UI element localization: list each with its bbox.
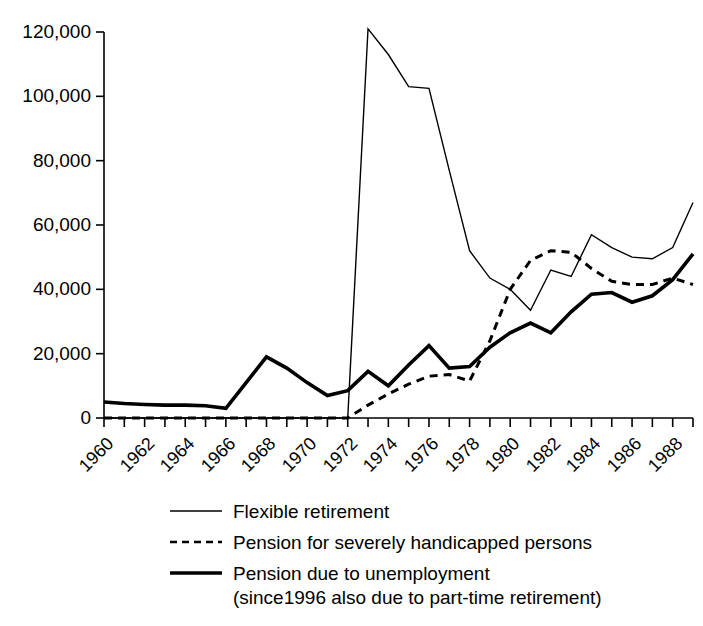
legend-label-block: Pension due to unemployment (since1996 a… [233, 562, 602, 610]
chart-legend: Flexible retirement Pension for severely… [168, 500, 688, 617]
series-line [104, 29, 693, 418]
legend-item-severely-handicapped: Pension for severely handicapped persons [168, 531, 688, 555]
legend-label: Pension for severely handicapped persons [233, 531, 592, 555]
y-axis-tick-label: 40,000 [33, 279, 91, 298]
series-line [104, 251, 693, 418]
legend-item-unemployment: Pension due to unemployment (since1996 a… [168, 562, 688, 610]
legend-line-thick-solid-icon [168, 562, 224, 582]
y-axis-tick-label: 100,000 [22, 86, 91, 105]
legend-label: Flexible retirement [233, 500, 389, 524]
axes [96, 32, 693, 427]
chart-container: 020,00040,00060,00080,000100,000120,000 … [0, 0, 703, 626]
legend-label-block: Flexible retirement [233, 500, 389, 524]
y-axis-tick-label: 120,000 [22, 22, 91, 41]
series-line [104, 254, 693, 408]
y-axis-tick-label: 0 [80, 408, 91, 427]
legend-label-block: Pension for severely handicapped persons [233, 531, 592, 555]
legend-line-dashed-icon [168, 531, 224, 551]
y-axis-tick-label: 20,000 [33, 344, 91, 363]
legend-line-thin-solid-icon [168, 500, 224, 520]
legend-label: Pension due to unemployment [233, 562, 602, 586]
y-axis-tick-label: 60,000 [33, 215, 91, 234]
y-axis-tick-label: 80,000 [33, 151, 91, 170]
legend-item-flexible-retirement: Flexible retirement [168, 500, 688, 524]
data-series-group [104, 29, 693, 418]
legend-sublabel: (since1996 also due to part-time retirem… [233, 586, 602, 610]
